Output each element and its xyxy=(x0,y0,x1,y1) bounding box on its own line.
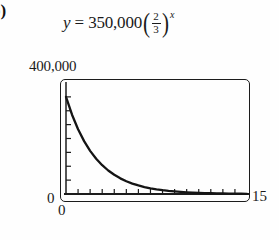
equation-equals-sign: = xyxy=(72,13,89,33)
x-axis-min-label: 0 xyxy=(58,202,66,219)
plot-area xyxy=(61,80,251,203)
equation: y = 350,000 ( 2 3 ) x xyxy=(63,11,174,36)
graph-window xyxy=(60,79,250,202)
fraction-denominator: 3 xyxy=(153,24,159,35)
equation-lhs: y xyxy=(63,13,72,33)
paren-close: ) xyxy=(162,14,169,33)
y-axis-min-label: 0 xyxy=(47,190,55,207)
fraction-numerator: 2 xyxy=(153,11,159,22)
part-label: b) xyxy=(0,1,6,21)
equation-coefficient: 350,000 xyxy=(88,13,142,33)
y-axis-max-label: 400,000 xyxy=(29,58,76,75)
fraction-two-thirds: 2 3 xyxy=(151,11,161,36)
x-axis-max-label: 15 xyxy=(252,188,267,205)
figure-container: b) y = 350,000 ( 2 3 ) x 400,000 xyxy=(0,0,279,240)
paren-open: ( xyxy=(143,14,150,33)
equation-exponent: x xyxy=(170,9,174,20)
equation-fraction-group: ( 2 3 ) x xyxy=(142,11,174,36)
exponential-decay-curve xyxy=(66,97,247,194)
